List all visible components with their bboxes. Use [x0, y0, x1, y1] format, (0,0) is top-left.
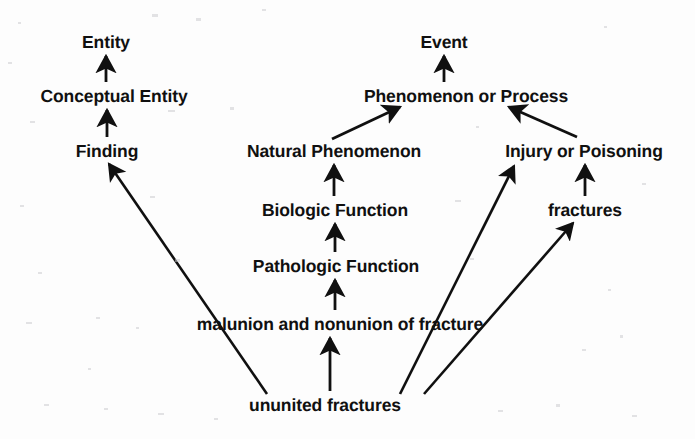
node-event[interactable]: Event: [420, 32, 467, 53]
node-conceptual[interactable]: Conceptual Entity: [40, 86, 187, 107]
edge-group: [106, 56, 585, 394]
node-fractures[interactable]: fractures: [548, 200, 622, 221]
node-entity[interactable]: Entity: [82, 32, 130, 53]
edge-injury-to-phenomenon: [509, 107, 577, 137]
node-finding[interactable]: Finding: [76, 141, 138, 162]
edge-ununited-to-injury: [400, 166, 514, 394]
edge-ununited-to-fractures: [424, 223, 573, 394]
node-pathologic[interactable]: Pathologic Function: [253, 256, 419, 277]
edge-ununited-to-finding: [109, 164, 267, 394]
node-ununited[interactable]: ununited fractures: [249, 395, 401, 416]
node-biologic[interactable]: Biologic Function: [262, 200, 408, 221]
node-natphen[interactable]: Natural Phenomenon: [247, 141, 421, 162]
node-malunion[interactable]: malunion and nonunion of fracture: [197, 314, 483, 335]
diagram-canvas: EntityConceptual EntityFindingEventPheno…: [0, 0, 695, 439]
edge-natphen-to-phenomenon: [332, 107, 400, 139]
node-phenomenon[interactable]: Phenomenon or Process: [364, 86, 568, 107]
node-injury[interactable]: Injury or Poisoning: [505, 141, 663, 162]
